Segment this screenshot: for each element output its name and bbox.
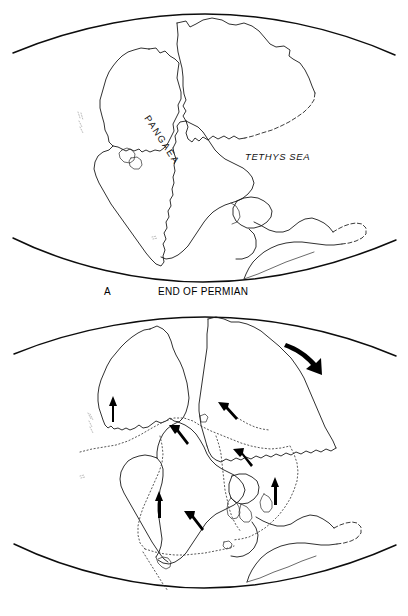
coastline-laurentia-north-america: [100, 48, 181, 152]
caption-panel-a: A END OF PERMIAN: [0, 286, 408, 302]
coastline-india-arabia: [233, 197, 272, 228]
faint-marking-west: [88, 413, 93, 433]
coastline-south-america: [94, 146, 176, 266]
coastline-africa-west: [173, 121, 186, 148]
coastline-madagascar: [260, 494, 272, 512]
coastline-angara-eurasia: [177, 18, 315, 93]
coastline-stray-southeast: [247, 556, 316, 582]
rift-indian-east: [233, 446, 298, 540]
coastline-antarctica-link: [236, 229, 256, 259]
arrow-north-america-north: [109, 396, 117, 422]
coastline-sliver-2: [239, 504, 252, 522]
arrow-central-africa-northeast: [233, 448, 253, 467]
panel-end-of-permian: PANGAEA TETHYS SEA A END OF PERMIAN: [0, 0, 408, 308]
coastline-eurasia: [208, 317, 336, 448]
arrow-eurasia-southeast: [283, 343, 322, 616]
arrow-south-america-north: [155, 491, 163, 518]
coastline-australia-dashed: [333, 223, 366, 244]
label-pangaea: PANGAEA: [142, 113, 182, 166]
panel-caption-a: END OF PERMIAN: [158, 286, 248, 297]
coastline-angara-east-dashed: [245, 93, 315, 138]
coastline-antarctica-australia: [254, 218, 333, 232]
coastline-eurasia-notch: [200, 414, 208, 422]
coastline-angara-south: [186, 121, 245, 142]
label-tethys-sea: TETHYS SEA: [245, 151, 310, 162]
coastline-small-block-2: [129, 157, 142, 169]
coastline-africa: [161, 121, 254, 259]
rift-tethys-north: [201, 426, 290, 449]
coastline-eurasia-west: [199, 319, 208, 446]
arrow-laurasia-northeast: [218, 402, 238, 420]
coastline-north-america: [98, 326, 189, 430]
faint-marking-south: [152, 236, 158, 239]
coastline-sliver-1: [227, 498, 240, 519]
coastline-australia-dashed: [334, 522, 361, 544]
coastline-africa: [158, 422, 245, 564]
map-end-of-triassic: [0, 308, 408, 616]
panel-end-of-triassic: B END OF TRIASSIC: [0, 308, 408, 616]
rift-africa-eurasia-seam: [234, 416, 269, 430]
faint-marking-west: [78, 112, 83, 133]
coastline-eurasia-south: [207, 446, 336, 462]
arrow-north-africa-northeast: [169, 425, 189, 445]
rift-north-atlantic: [80, 418, 201, 452]
faint-marking-southwest: [80, 475, 85, 478]
arrow-india-north: [271, 477, 279, 505]
map-end-of-permian: PANGAEA TETHYS SEA: [0, 0, 408, 308]
globe-bottom-arc: [14, 544, 396, 588]
globe-top-arc: [14, 317, 396, 356]
coastline-australia-south: [247, 543, 337, 582]
arrow-south-america-northeast: [184, 511, 204, 531]
panel-letter-a: A: [104, 286, 111, 297]
coastline-india: [229, 474, 259, 504]
